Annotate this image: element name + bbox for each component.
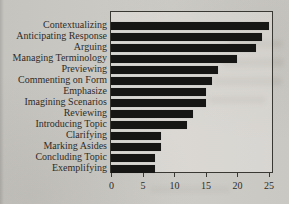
bar-concluding-topic [111,154,155,162]
bar-contextualizing [111,22,269,30]
x-axis: 0510152025 [110,173,289,204]
bar-previewing [111,66,218,74]
category-label: Emphasize [0,85,107,96]
bar-imagining-scenarios [111,99,206,107]
category-label: Introducing Topic [0,118,107,129]
bar-arguing [111,44,256,52]
category-axis-labels: ContextualizingAnticipating ResponseArgu… [0,11,107,173]
category-label: Managing Terminology [0,52,107,63]
category-label: Commenting on Form [0,74,107,85]
x-axis-tick-label: 10 [164,180,186,192]
bar-anticipating-response [111,33,262,41]
category-label: Imagining Scenarios [0,96,107,107]
bar-clarifying [111,132,161,140]
x-axis-tick-label: 15 [195,180,217,192]
category-label: Marking Asides [0,140,107,151]
bar-reviewing [111,110,193,118]
x-axis-tick-label: 0 [101,180,123,192]
x-axis-tick [237,173,238,177]
x-axis-tick-label: 25 [258,180,280,192]
category-label: Reviewing [0,107,107,118]
category-label: Arguing [0,41,107,52]
bar-managing-terminology [111,55,237,63]
bar-introducing-topic [111,121,187,129]
category-label: Previewing [0,63,107,74]
x-axis-tick-label: 5 [132,180,154,192]
category-label: Concluding Topic [0,151,107,162]
category-label: Anticipating Response [0,30,107,41]
category-label: Clarifying [0,129,107,140]
x-axis-tick [206,173,207,177]
x-axis-tick-label: 20 [227,180,249,192]
bar-commenting-on-form [111,77,212,85]
plot-area [110,11,273,173]
category-label: Contextualizing [0,19,107,30]
bar-emphasize [111,88,206,96]
bar-exemplifying [111,165,155,173]
x-axis-tick [111,173,112,177]
bar-marking-asides [111,143,161,151]
scanned-bar-chart-page: ContextualizingAnticipating ResponseArgu… [0,0,289,204]
x-axis-tick [143,173,144,177]
x-axis-tick [174,173,175,177]
x-axis-tick [269,173,270,177]
category-label: Exemplifying [0,162,107,173]
